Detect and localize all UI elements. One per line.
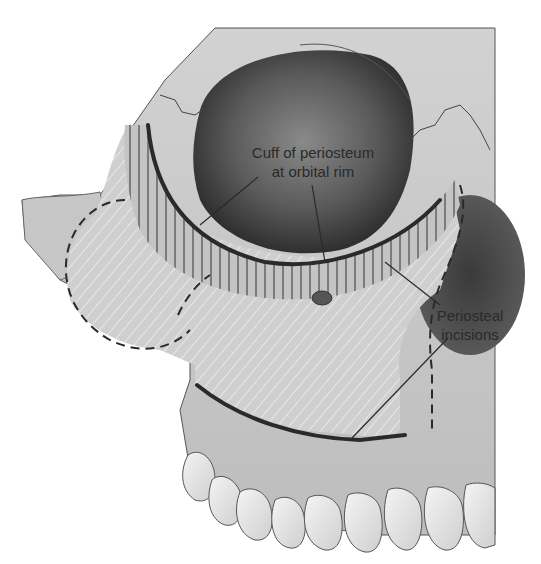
label-periosteal-incisions: Periosteal incisions	[430, 306, 510, 344]
label-incisions-line2: incisions	[430, 325, 510, 344]
label-incisions-line1: Periosteal	[430, 306, 510, 325]
skull-illustration	[0, 0, 541, 564]
label-cuff-line1: Cuff of periosteum	[238, 143, 388, 162]
label-cuff-line2: at orbital rim	[238, 162, 388, 181]
label-cuff-of-periosteum: Cuff of periosteum at orbital rim	[238, 143, 388, 181]
infraorbital-foramen	[312, 291, 332, 305]
